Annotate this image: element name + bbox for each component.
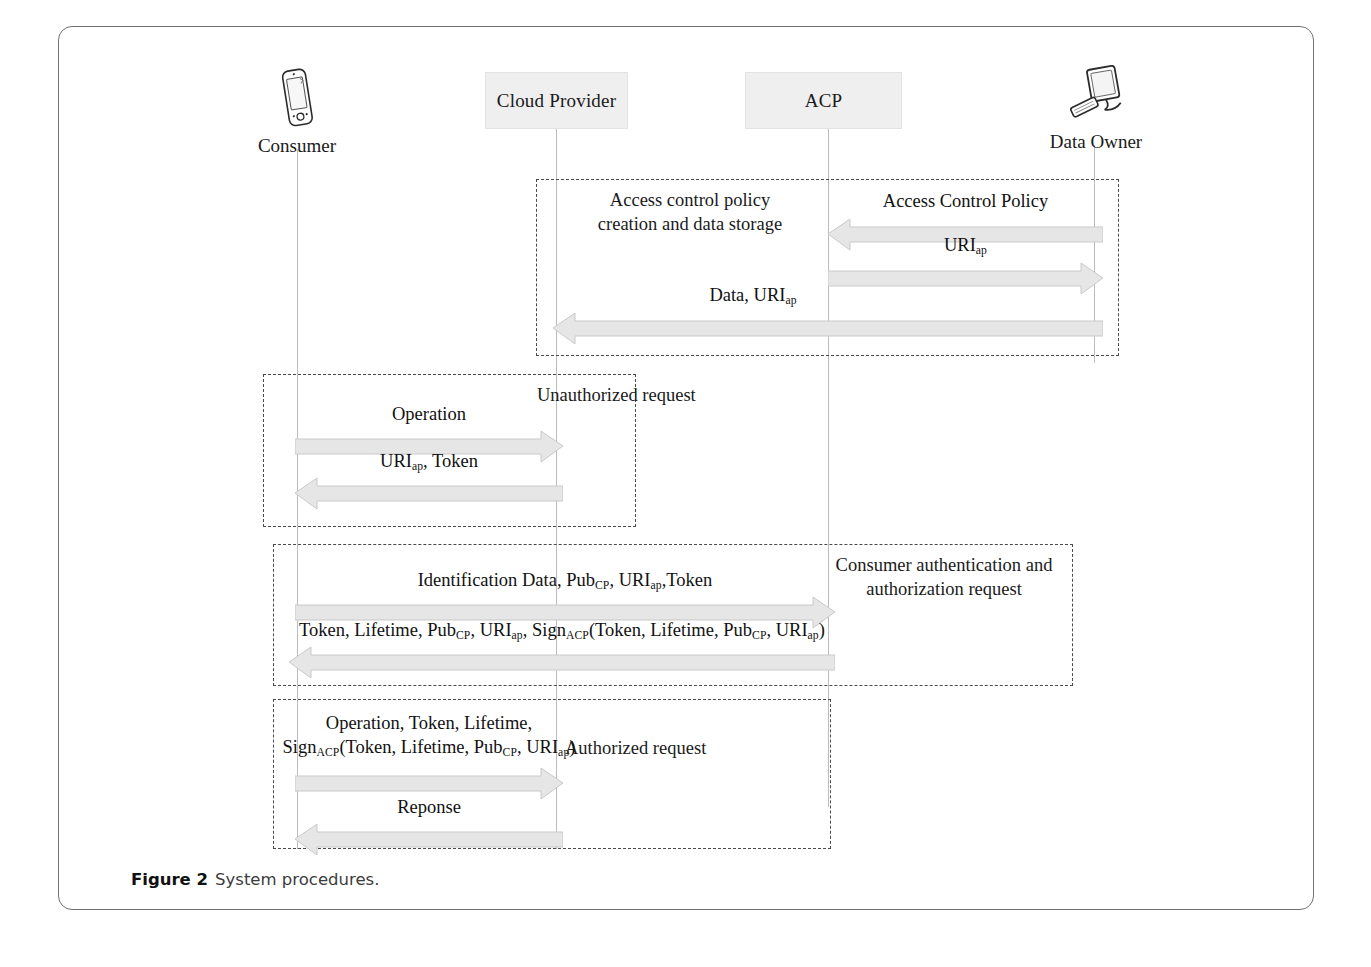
figure-card: Consumer Cloud Provider ACP: [58, 26, 1314, 910]
figure-caption: Figure 2System procedures.: [131, 870, 379, 889]
fragment-note-unauthorized-request: Unauthorized request: [537, 384, 767, 408]
sequence-diagram: Consumer Cloud Provider ACP: [59, 27, 1315, 911]
message-authorized-operation[interactable]: Operation, Token, Lifetime,SignACP(Token…: [295, 765, 563, 801]
message-reponse[interactable]: Reponse: [295, 821, 563, 857]
message-uri-ap-token[interactable]: URIap, Token: [295, 475, 563, 511]
smartphone-icon: [276, 67, 318, 133]
participant-label-data-owner: Data Owner: [1037, 131, 1155, 153]
participant-data-owner[interactable]: Data Owner: [1037, 65, 1155, 153]
participant-consumer[interactable]: Consumer: [245, 67, 349, 157]
message-identification-data[interactable]: Identification Data, PubCP, URIap,Token: [295, 594, 835, 630]
participant-label-cloud-provider: Cloud Provider: [497, 90, 616, 112]
message-data-uri-ap[interactable]: Data, URIap: [553, 309, 1103, 347]
desktop-computer-icon: [1064, 65, 1128, 129]
fragment-note-authorized-request: Authorized request: [565, 737, 795, 761]
message-access-control-policy[interactable]: Access Control Policy: [828, 215, 1103, 253]
message-uri-ap-to-owner[interactable]: URIap: [828, 259, 1103, 297]
message-operation[interactable]: Operation: [295, 428, 563, 464]
message-token-lifetime-sign[interactable]: Token, Lifetime, PubCP, URIap, SignACP(T…: [289, 644, 835, 680]
figure-caption-label: Figure 2: [131, 870, 208, 889]
participant-label-acp: ACP: [805, 90, 843, 112]
figure-caption-text: System procedures.: [215, 870, 379, 889]
participant-cloud-provider[interactable]: Cloud Provider: [485, 72, 628, 129]
fragment-note-consumer-authentication: Consumer authentication and authorizatio…: [819, 554, 1069, 601]
participant-acp[interactable]: ACP: [745, 72, 902, 129]
participant-label-consumer: Consumer: [245, 135, 349, 157]
fragment-note-policy-creation: Access control policy creation and data …: [549, 189, 831, 236]
